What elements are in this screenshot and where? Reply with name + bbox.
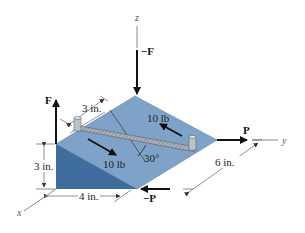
upper-10lb-label: 10 lb: [147, 112, 170, 124]
height-dimension: 3 in.: [33, 144, 56, 189]
statics-diagram: z −F F 3 in. 30° 10 lb: [0, 0, 305, 233]
y-axis-label: y: [281, 135, 287, 146]
right-pin: [189, 136, 196, 151]
angle-label: 30°: [144, 152, 159, 164]
left-pin: [74, 117, 81, 132]
p-arrow: P: [217, 124, 250, 140]
width-label: 4 in.: [79, 190, 99, 202]
width-dimension: 4 in.: [48, 190, 131, 202]
p-label: P: [243, 124, 250, 136]
length-label: 6 in.: [215, 156, 235, 168]
x-axis-label: x: [16, 207, 22, 218]
neg-f-arrow: −F: [137, 45, 154, 94]
y-axis: y: [252, 135, 287, 146]
height-label: 3 in.: [34, 160, 54, 172]
neg-f-label: −F: [141, 45, 154, 57]
neg-p-label: −P: [143, 192, 156, 204]
neg-p-arrow: −P: [141, 189, 170, 204]
z-axis: z: [134, 12, 139, 48]
x-axis: x: [16, 189, 56, 218]
f-label: F: [45, 94, 52, 106]
lower-10lb-label: 10 lb: [103, 158, 126, 170]
z-axis-label: z: [134, 12, 139, 23]
f-arrow: F: [45, 94, 56, 144]
pin-offset-label: 3 in.: [82, 102, 102, 114]
